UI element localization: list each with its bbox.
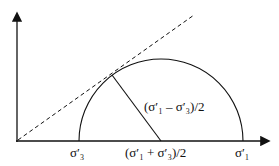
label-center: (σ′₁ + σ′₃)/2 [125,146,186,159]
label-radius: (σ′₁ – σ′₃)/2 [144,100,205,113]
failure-envelope-dashed [18,15,194,140]
label-sigma1: σ′₁ [235,146,249,159]
label-sigma3: σ′₃ [70,146,84,159]
mohr-circle-diagram [0,0,279,166]
